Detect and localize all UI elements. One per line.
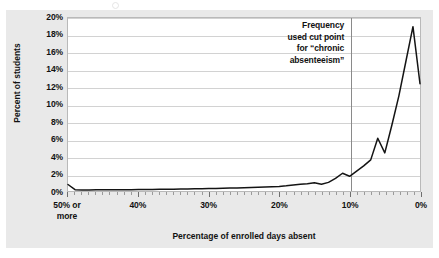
x-axis-minor-tick [379,192,380,195]
x-axis-minor-tick [251,192,252,195]
x-axis-minor-tick [223,192,224,195]
x-axis-minor-tick [202,192,203,195]
x-axis-minor-tick [336,192,337,195]
x-axis-minor-tick [272,192,273,195]
x-axis-major-tick [421,192,422,197]
x-axis-minor-tick [301,192,302,195]
x-axis-minor-tick [400,192,401,195]
y-axis-tick-label: 6% [19,135,63,144]
y-axis-tick-label: 8% [19,118,63,127]
y-axis-tick-label: 4% [19,153,63,162]
x-axis-minor-tick [145,192,146,195]
x-axis-title: Percentage of enrolled days absent [67,231,421,241]
x-axis-minor-tick [343,192,344,195]
x-axis-minor-tick [265,192,266,195]
x-axis-minor-tick [152,192,153,195]
x-axis-minor-tick [371,192,372,195]
x-axis-minor-tick [159,192,160,195]
x-axis-minor-tick [173,192,174,195]
x-axis-ticks [67,192,421,198]
x-axis-minor-tick [180,192,181,195]
x-axis-minor-tick [237,192,238,195]
x-axis-minor-tick [286,192,287,195]
scan-artifact-speck [112,2,119,9]
x-axis-minor-tick [414,192,415,195]
x-axis-major-tick [279,192,280,197]
x-axis-minor-tick [216,192,217,195]
x-axis-minor-tick [364,192,365,195]
x-axis-minor-tick [109,192,110,195]
x-axis-major-tick [67,192,68,197]
x-axis-major-tick [350,192,351,197]
y-axis-tick-label: 0% [19,188,63,197]
x-axis-minor-tick [357,192,358,195]
y-axis-tick-label: 14% [19,65,63,74]
x-axis-minor-tick [95,192,96,195]
x-axis-minor-tick [166,192,167,195]
x-axis-minor-tick [124,192,125,195]
y-axis-tick-labels: 0%2%4%6%8%10%12%14%16%18%20% [17,17,63,192]
absenteeism-distribution-figure: Percent of students 0%2%4%6%8%10%12%14%1… [0,0,439,258]
x-axis-minor-tick [308,192,309,195]
x-axis-minor-tick [81,192,82,195]
y-axis-tick-label: 10% [19,100,63,109]
x-axis-minor-tick [194,192,195,195]
y-axis-tick-label: 20% [19,13,63,22]
x-axis-tick-label: 50% or more [32,200,102,222]
x-axis-minor-tick [322,192,323,195]
x-axis-minor-tick [230,192,231,195]
x-axis-tick-label: 0% [386,200,439,211]
x-axis-minor-tick [258,192,259,195]
y-axis-tick-label: 2% [19,170,63,179]
x-axis-minor-tick [74,192,75,195]
x-axis-tick-label: 30% [174,200,244,211]
x-axis-major-tick [209,192,210,197]
x-axis-minor-tick [294,192,295,195]
y-axis-tick-label: 18% [19,30,63,39]
cut-point-annotation: Frequency used cut point for “chronic ab… [220,20,344,66]
x-axis-tick-labels: 50% or more40%30%20%10%0% [67,200,421,226]
x-axis-tick-label: 20% [244,200,314,211]
x-axis-minor-tick [88,192,89,195]
x-axis-tick-label: 40% [103,200,173,211]
y-axis-tick-label: 16% [19,48,63,57]
x-axis-tick-label: 10% [315,200,385,211]
x-axis-minor-tick [393,192,394,195]
x-axis-minor-tick [329,192,330,195]
y-axis-tick-label: 12% [19,83,63,92]
x-axis-minor-tick [244,192,245,195]
x-axis-minor-tick [187,192,188,195]
x-axis-major-tick [138,192,139,197]
x-axis-minor-tick [131,192,132,195]
x-axis-minor-tick [315,192,316,195]
x-axis-minor-tick [386,192,387,195]
x-axis-minor-tick [117,192,118,195]
x-axis-minor-tick [407,192,408,195]
x-axis-minor-tick [102,192,103,195]
